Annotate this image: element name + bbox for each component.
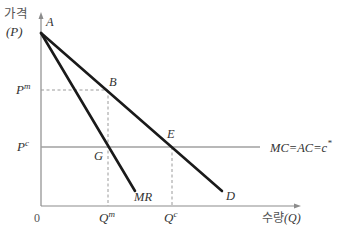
mr-label: MR [133,190,152,204]
pm-base: P [15,82,24,97]
price-label-monopoly: Pm [15,81,31,97]
point-b-label: B [109,75,117,89]
dashed-guides [41,90,172,206]
cost-line-label: MC=AC=c* [269,138,332,155]
qc-sup: c [173,209,177,219]
cost-line-sup: * [327,138,332,148]
monopoly-diagram: 가격 (P) A B E G Pm Pc 0 Qm Qc 수량(Q) D MR … [0,0,344,236]
y-axis-label-korean: 가격 [4,6,28,21]
marginal-revenue-curve [41,33,135,191]
x-axis-label: 수량(Q) [262,211,301,225]
cost-line-text: MC=AC=c [269,141,328,155]
x-axis-label-korean: 수량 [262,211,284,225]
origin-label: 0 [34,211,40,225]
pm-sup: m [24,81,31,91]
point-a-label: A [45,15,54,29]
pc-sup: c [25,138,29,148]
point-g-label: G [94,149,103,163]
quantity-label-competitive: Qc [164,209,177,225]
svg-text:Qc: Qc [164,209,177,225]
svg-text:Pc: Pc [16,138,29,154]
axes [39,12,302,209]
y-axis-arrow-icon [39,12,44,19]
price-label-competitive: Pc [16,138,29,154]
demand-label: D [225,189,235,203]
point-e-label: E [166,127,175,141]
svg-text:Qm: Qm [99,209,115,225]
pc-base: P [16,139,25,154]
qm-sup: m [108,209,115,219]
quantity-label-monopoly: Qm [99,209,115,225]
svg-text:Pm: Pm [15,81,31,97]
x-axis-label-symbol: (Q) [284,211,301,225]
x-axis-arrow-icon [294,204,301,209]
y-axis-label-symbol: (P) [6,24,23,39]
demand-curve [41,33,222,191]
